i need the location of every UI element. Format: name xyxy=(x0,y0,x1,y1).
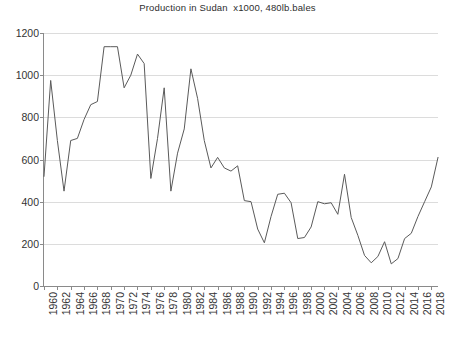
x-tick-label: 2010 xyxy=(382,292,393,315)
x-tick-label: 1976 xyxy=(155,292,166,315)
x-tick-mark xyxy=(124,286,125,290)
y-tick-label: 600 xyxy=(21,154,39,165)
x-tick-mark xyxy=(151,286,152,290)
x-tick-label: 1984 xyxy=(208,292,219,315)
x-tick-label: 1970 xyxy=(115,292,126,315)
x-tick-mark xyxy=(44,286,45,290)
y-tick-label: 1200 xyxy=(16,28,39,39)
x-tick-label: 1962 xyxy=(61,292,72,315)
x-tick-mark xyxy=(178,286,179,290)
x-tick-mark xyxy=(431,286,432,290)
x-tick-label: 2014 xyxy=(409,292,420,315)
x-tick-label: 1996 xyxy=(288,292,299,315)
x-tick-mark xyxy=(204,286,205,290)
x-tick-mark xyxy=(298,286,299,290)
x-tick-label: 1988 xyxy=(235,292,246,315)
x-tick-mark xyxy=(57,286,58,290)
chart-title: Production in Sudan x1000, 480lb.bales xyxy=(0,2,455,13)
x-tick-label: 2018 xyxy=(435,292,446,315)
x-tick-mark xyxy=(324,286,325,290)
x-tick-mark xyxy=(111,286,112,290)
x-tick-label: 2016 xyxy=(422,292,433,315)
x-tick-label: 1982 xyxy=(195,292,206,315)
x-tick-label: 1998 xyxy=(302,292,313,315)
x-tick-label: 1974 xyxy=(141,292,152,315)
series-polyline xyxy=(44,47,438,264)
data-series-line xyxy=(44,33,438,286)
x-tick-mark xyxy=(271,286,272,290)
x-tick-label: 1992 xyxy=(262,292,273,315)
x-tick-label: 2002 xyxy=(328,292,339,315)
x-tick-label: 2000 xyxy=(315,292,326,315)
x-tick-label: 2012 xyxy=(395,292,406,315)
x-tick-mark xyxy=(365,286,366,290)
x-tick-mark xyxy=(351,286,352,290)
x-tick-label: 1986 xyxy=(222,292,233,315)
x-tick-label: 1964 xyxy=(75,292,86,315)
x-tick-label: 1978 xyxy=(168,292,179,315)
chart-container: Production in Sudan x1000, 480lb.bales 0… xyxy=(0,0,455,343)
plot-area: 020040060080010001200 196019621964196619… xyxy=(44,33,438,286)
x-tick-label: 1960 xyxy=(48,292,59,315)
x-tick-label: 2006 xyxy=(355,292,366,315)
x-tick-mark xyxy=(137,286,138,290)
y-tick-label: 0 xyxy=(33,281,39,292)
x-tick-mark xyxy=(244,286,245,290)
x-tick-mark xyxy=(378,286,379,290)
x-tick-mark xyxy=(418,286,419,290)
x-tick-label: 1966 xyxy=(88,292,99,315)
y-tick-label: 400 xyxy=(21,196,39,207)
x-tick-mark xyxy=(84,286,85,290)
x-tick-label: 1994 xyxy=(275,292,286,315)
x-tick-mark xyxy=(231,286,232,290)
x-tick-mark xyxy=(71,286,72,290)
x-tick-mark xyxy=(97,286,98,290)
y-tick-label: 200 xyxy=(21,239,39,250)
x-tick-mark xyxy=(391,286,392,290)
x-tick-label: 1980 xyxy=(182,292,193,315)
x-tick-label: 1972 xyxy=(128,292,139,315)
gridline xyxy=(44,286,438,287)
x-tick-label: 1968 xyxy=(101,292,112,315)
x-tick-label: 2008 xyxy=(369,292,380,315)
x-tick-label: 1990 xyxy=(248,292,259,315)
x-tick-mark xyxy=(405,286,406,290)
y-tick-label: 1000 xyxy=(16,70,39,81)
x-tick-mark xyxy=(311,286,312,290)
x-tick-mark xyxy=(218,286,219,290)
x-tick-mark xyxy=(338,286,339,290)
x-tick-mark xyxy=(258,286,259,290)
x-tick-mark xyxy=(191,286,192,290)
x-tick-mark xyxy=(164,286,165,290)
y-tick-label: 800 xyxy=(21,112,39,123)
x-tick-mark xyxy=(284,286,285,290)
x-tick-label: 2004 xyxy=(342,292,353,315)
